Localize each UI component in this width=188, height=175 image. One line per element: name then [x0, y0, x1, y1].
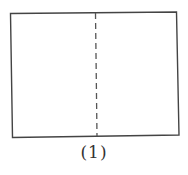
figure-caption: (1) [0, 142, 188, 162]
rectangle-outline [11, 12, 180, 138]
dashed-fold-line [96, 13, 98, 137]
